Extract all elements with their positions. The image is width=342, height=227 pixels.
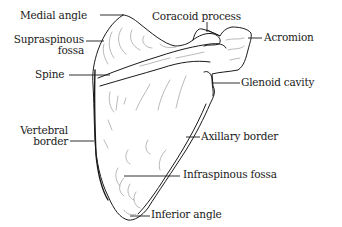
label-infraspinous-fossa: Infraspinous fossa bbox=[183, 169, 277, 180]
label-coracoid-process: Coracoid process bbox=[152, 11, 241, 22]
label-inferior-angle: Inferior angle bbox=[151, 209, 222, 220]
label-spine: Spine bbox=[35, 69, 64, 80]
scapula-outline bbox=[93, 15, 252, 220]
label-glenoid-cavity: Glenoid cavity bbox=[241, 77, 314, 88]
scapula-diagram: Medial angle Coracoid process Supraspino… bbox=[0, 0, 342, 227]
label-vertebral-border-2: border bbox=[4, 136, 68, 147]
label-acromion: Acromion bbox=[264, 32, 314, 43]
label-medial-angle: Medial angle bbox=[20, 10, 87, 21]
label-axillary-border: Axillary border bbox=[201, 131, 278, 142]
label-supraspinous-fossa-2: fossa bbox=[4, 45, 84, 56]
spine-ridge bbox=[98, 44, 226, 78]
